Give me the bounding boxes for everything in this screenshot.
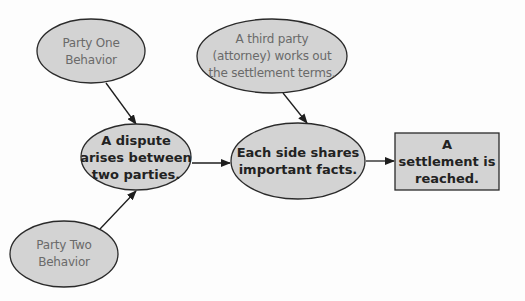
arrow-third-party-to-each-side [283,93,307,123]
dispute-line-1: A dispute [101,132,171,149]
third-party-line-3: the settlement terms. [209,65,336,82]
flow-diagram: Party One Behavior A third party (attorn… [0,0,525,301]
dispute-line-3: two parties. [92,166,180,183]
settlement-label: A settlement is reached. [395,133,499,190]
party-one-line-1: Party One [62,35,119,52]
party-two-line-1: Party Two [36,237,91,254]
party-one-label: Party One Behavior [37,20,145,83]
dispute-line-2: arises between [80,149,192,166]
settlement-line-3: reached. [415,170,479,187]
third-party-line-1: A third party [236,31,309,48]
each-side-label: Each side shares important facts. [231,123,365,199]
settlement-line-1: A [442,136,452,153]
third-party-line-2: (attorney) works out [213,48,332,65]
party-one-line-2: Behavior [65,52,117,69]
party-two-line-2: Behavior [38,254,90,271]
dispute-label: A dispute arises between two parties. [81,124,191,190]
settlement-line-2: settlement is [399,153,496,170]
arrow-party-one-to-dispute [106,83,136,124]
each-side-line-2: important facts. [239,161,358,178]
each-side-line-1: Each side shares [237,144,360,161]
party-two-label: Party Two Behavior [10,221,118,287]
third-party-label: A third party (attorney) works out the s… [197,19,347,93]
